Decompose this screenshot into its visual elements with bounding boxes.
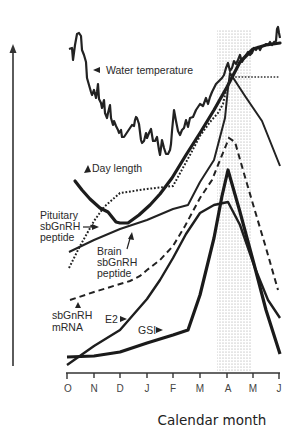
annotation-day-length: Day length bbox=[84, 162, 142, 174]
annotation-brain-sbgnrh: Brain sbGnRH peptide bbox=[97, 232, 137, 279]
tick-label-jun: J bbox=[277, 383, 282, 394]
pointer-arrow-icon bbox=[93, 67, 100, 73]
label-pituitary-line3: peptide bbox=[40, 231, 75, 243]
tick-label-mar: M bbox=[196, 383, 204, 394]
pointer-arrow-icon bbox=[128, 232, 134, 240]
label-mrna-line2: mRNA bbox=[52, 321, 83, 333]
pointer-arrow-icon bbox=[84, 165, 91, 173]
tick-label-oct: O bbox=[64, 383, 72, 394]
annotation-e2: E2 bbox=[105, 313, 127, 325]
tick-label-nov: N bbox=[90, 383, 97, 394]
label-gsi: GSI bbox=[138, 324, 156, 336]
pointer-arrow-icon bbox=[156, 327, 163, 333]
label-day-length: Day length bbox=[92, 162, 142, 174]
tick-label-dec: D bbox=[116, 383, 123, 394]
pointer-arrow-icon bbox=[75, 302, 81, 308]
y-axis-arrow bbox=[10, 44, 17, 366]
label-water-temperature: Water temperature bbox=[106, 64, 193, 76]
annotation-sbgnrh-mrna: sbGnRH mRNA bbox=[52, 302, 92, 333]
label-mrna-line1: sbGnRH bbox=[52, 309, 92, 321]
pointer-arrow-icon bbox=[120, 316, 127, 322]
tick-label-feb: F bbox=[170, 383, 176, 394]
x-axis-title: Calendar month bbox=[158, 412, 267, 428]
label-e2: E2 bbox=[105, 313, 118, 325]
tick-label-jan: J bbox=[145, 383, 150, 394]
x-axis: O N D J F M A M J Calendar month bbox=[64, 373, 281, 428]
annotation-gsi: GSI bbox=[138, 324, 163, 336]
annotation-water-temperature: Water temperature bbox=[93, 64, 193, 76]
label-brain-line3: peptide bbox=[97, 267, 132, 279]
tick-label-may: M bbox=[249, 383, 257, 394]
chart: O N D J F M A M J Calendar month Water t… bbox=[0, 0, 299, 428]
tick-label-apr: A bbox=[225, 383, 232, 394]
pointer-arrow-icon bbox=[92, 224, 99, 230]
